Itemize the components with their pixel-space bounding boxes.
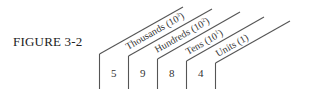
place-value-diagram: Thousands (103) Hundreds (102) Tens (101… (0, 0, 311, 100)
digit-hundreds: 9 (140, 67, 146, 79)
digit-units: 4 (198, 67, 204, 79)
digit-thousands: 5 (111, 67, 117, 79)
digit-tens: 8 (169, 67, 175, 79)
